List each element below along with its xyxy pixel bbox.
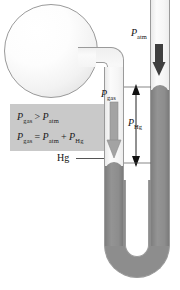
label-mercury: Hg: [57, 152, 69, 163]
formula-p-gas-sub: gas: [23, 117, 32, 124]
formula-line-inequality: Pgas>Patm: [17, 111, 59, 124]
formula2-operator-eq: =: [33, 131, 43, 142]
formula-p-atm-sub: atm: [49, 117, 59, 124]
label-p-hg-subscript: Hg: [134, 123, 142, 130]
p-gas-arrow-icon: [107, 102, 121, 158]
formula-operator-gt: >: [33, 111, 43, 122]
label-p-atm: Patm: [131, 27, 147, 40]
pressure-relationship-box: Pgas>Patm Pgas=Patm+PHg: [10, 104, 104, 151]
mercury-leader-line: [76, 158, 104, 159]
manometer-figure: Pgas>Patm Pgas=Patm+PHg Patm Pgas PHg Hg: [0, 0, 180, 290]
formula2-p-hg-sub: Hg: [75, 137, 83, 144]
formula2-p-gas-sub: gas: [23, 137, 32, 144]
label-p-gas-subscript: gas: [107, 94, 116, 101]
formula2-p-atm-sub: atm: [49, 137, 59, 144]
formula-line-equation: Pgas=Patm+PHg: [17, 131, 84, 144]
label-p-gas: Pgas: [101, 88, 116, 101]
formula2-operator-plus: +: [59, 131, 69, 142]
label-p-hg: PHg: [128, 117, 142, 130]
label-p-atm-subscript: atm: [137, 33, 147, 40]
p-atm-arrow-icon: [153, 44, 166, 76]
